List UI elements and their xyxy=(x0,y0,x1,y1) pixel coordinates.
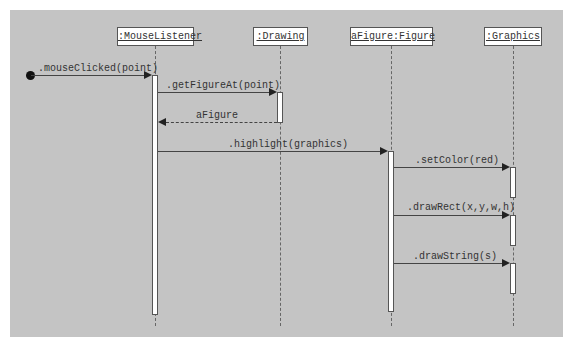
diagram-canvas xyxy=(10,10,563,337)
message-line-drawstring xyxy=(394,263,502,264)
message-label-drawrect: .drawRect(x,y,w,h) xyxy=(407,202,515,213)
arrowhead-icon xyxy=(502,211,510,219)
arrowhead-icon xyxy=(380,147,388,155)
object-mouselistener: :MouseListener xyxy=(117,27,194,46)
message-label-highlight: .highlight(graphics) xyxy=(228,139,348,150)
message-label-getfigureat: .getFigureAt(point) xyxy=(166,80,280,91)
activation-graphics-2 xyxy=(510,215,516,246)
message-line-highlight xyxy=(158,151,380,152)
arrowhead-icon xyxy=(502,259,510,267)
message-label-setcolor: .setColor(red) xyxy=(415,155,499,166)
message-label-mouseclicked: .mouseClicked(point) xyxy=(38,63,158,74)
activation-mouselistener xyxy=(152,75,158,315)
message-label-afigure-return: aFigure xyxy=(196,110,238,121)
activation-graphics-1 xyxy=(510,167,516,198)
message-line-getfigureat xyxy=(158,92,269,93)
lifeline-drawing xyxy=(280,46,281,326)
arrowhead-icon xyxy=(502,163,510,171)
message-line-mouseclicked xyxy=(31,75,145,76)
activation-drawing xyxy=(277,92,283,123)
object-graphics: :Graphics xyxy=(484,27,542,46)
activation-afigure xyxy=(388,151,394,312)
message-line-setcolor xyxy=(394,167,502,168)
activation-graphics-3 xyxy=(510,263,516,294)
message-label-drawstring: .drawString(s) xyxy=(413,251,497,262)
arrowhead-icon xyxy=(158,118,166,126)
object-afigure: aFigure:Figure xyxy=(350,27,433,46)
arrowhead-icon xyxy=(144,71,152,79)
object-drawing: :Drawing xyxy=(253,27,308,46)
message-line-drawrect xyxy=(394,215,502,216)
arrowhead-icon xyxy=(269,88,277,96)
message-line-afigure-return xyxy=(166,122,277,123)
